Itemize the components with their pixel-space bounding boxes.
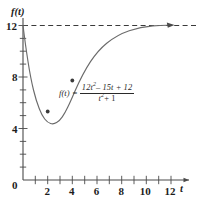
- x-tick-label-10: 10: [140, 185, 152, 197]
- equation-equals-sign: =: [73, 89, 78, 98]
- curve-arrowhead: [167, 23, 175, 28]
- data-point-t2: [46, 110, 50, 114]
- numerator-prefix: 12t: [82, 83, 93, 92]
- equation-numerator: 12t2– 15t + 12: [80, 84, 134, 93]
- y-tick-label-12: 12: [6, 20, 18, 32]
- data-point-t4: [70, 79, 74, 83]
- x-axis-label: t: [180, 183, 184, 194]
- function-equation-annotation: f(t) = 12t2– 15t + 12 t2+ 1: [59, 84, 134, 104]
- x-tick-label-12: 12: [165, 185, 177, 197]
- equation-lhs: f(t): [59, 89, 70, 98]
- y-axis-label: f(t): [11, 6, 24, 18]
- equation-fraction: 12t2– 15t + 12 t2+ 1: [80, 84, 134, 104]
- function-graph-figure: f(t) t 12 8 4 0 2 4 6 8 10 12 f(t) = 12t…: [0, 0, 201, 207]
- x-axis-arrowhead: [184, 178, 190, 182]
- function-curve: [23, 25, 168, 124]
- y-tick-label-8: 8: [12, 71, 18, 83]
- x-tick-label-2: 2: [44, 185, 50, 197]
- x-tick-label-4: 4: [69, 185, 75, 197]
- numerator-mid: – 15t + 12: [96, 83, 132, 92]
- denominator-suffix: + 1: [104, 94, 115, 103]
- x-tick-label-8: 8: [118, 185, 124, 197]
- equation-denominator: t2+ 1: [97, 94, 118, 103]
- y-tick-label-4: 4: [12, 123, 18, 135]
- origin-label: 0: [12, 179, 18, 191]
- x-tick-label-6: 6: [94, 185, 100, 197]
